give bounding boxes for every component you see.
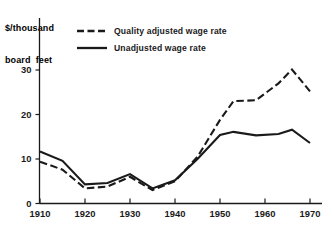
legend-label: Quality adjusted wage rate [114,26,227,36]
x-tick-label: 1970 [300,208,321,219]
x-tick-label: 1950 [210,208,231,219]
x-axis-tick-labels: 1910192019301940195019601970 [30,208,321,219]
y-axis-tick-labels: 0102030 [21,64,31,209]
x-tick-label: 1960 [255,208,276,219]
x-tick-label: 1940 [165,208,186,219]
series-quality-adjusted [40,70,310,191]
series-unadjusted [40,130,310,189]
legend-label: Unadjusted wage rate [114,43,206,53]
y-tick-label: 20 [21,109,31,120]
x-tick-label: 1930 [120,208,141,219]
y-tick-label: 30 [21,64,31,75]
line-chart-plot: 0102030 1910192019301940195019601970 Qua… [0,0,333,228]
chart-container: $/thousand board feet 0102030 1910192019… [0,0,333,228]
y-tick-label: 10 [21,153,31,164]
x-axis-ticks [40,199,310,204]
data-series-layer [40,70,310,191]
x-tick-label: 1910 [30,208,51,219]
x-tick-label: 1920 [75,208,96,219]
chart-legend: Quality adjusted wage rateUnadjusted wag… [77,26,227,53]
